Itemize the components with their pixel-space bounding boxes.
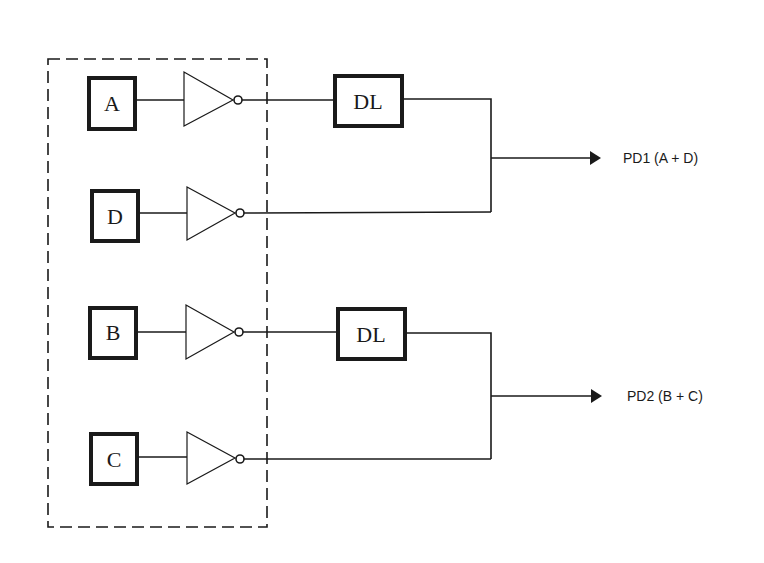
channel-b: B DL bbox=[90, 305, 491, 459]
inverter-triangle-a bbox=[184, 72, 233, 126]
channel-d: D bbox=[92, 187, 491, 241]
arrow-head-pd1-icon bbox=[590, 151, 601, 165]
input-label-d: D bbox=[107, 204, 123, 229]
wire-d-to-junction bbox=[244, 212, 491, 213]
delay-line-label-1: DL bbox=[353, 89, 382, 114]
inverter-triangle-d bbox=[187, 187, 235, 240]
inverter-bubble-a bbox=[234, 96, 242, 104]
input-label-c: C bbox=[107, 447, 122, 472]
wire-delay2-to-junction bbox=[405, 333, 491, 459]
inverter-bubble-c bbox=[236, 455, 244, 463]
wire-delay1-to-junction bbox=[402, 99, 491, 212]
input-label-b: B bbox=[106, 320, 121, 345]
input-label-a: A bbox=[104, 91, 120, 116]
inverter-triangle-c bbox=[187, 432, 235, 484]
output-pd2: PD2 (B + C) bbox=[491, 388, 703, 404]
inverter-bubble-d bbox=[236, 209, 244, 217]
output-label-pd2: PD2 (B + C) bbox=[627, 388, 703, 404]
channel-c: C bbox=[91, 432, 491, 484]
inverter-triangle-b bbox=[186, 305, 234, 359]
output-pd1: PD1 (A + D) bbox=[491, 150, 698, 166]
output-label-pd1: PD1 (A + D) bbox=[623, 150, 698, 166]
pulse-diagram: A DL D PD1 (A + D) B DL C bbox=[0, 0, 764, 563]
arrow-head-pd2-icon bbox=[591, 389, 602, 403]
channel-a: A DL bbox=[89, 72, 491, 212]
inverter-bubble-b bbox=[235, 328, 243, 336]
delay-line-label-2: DL bbox=[356, 322, 385, 347]
